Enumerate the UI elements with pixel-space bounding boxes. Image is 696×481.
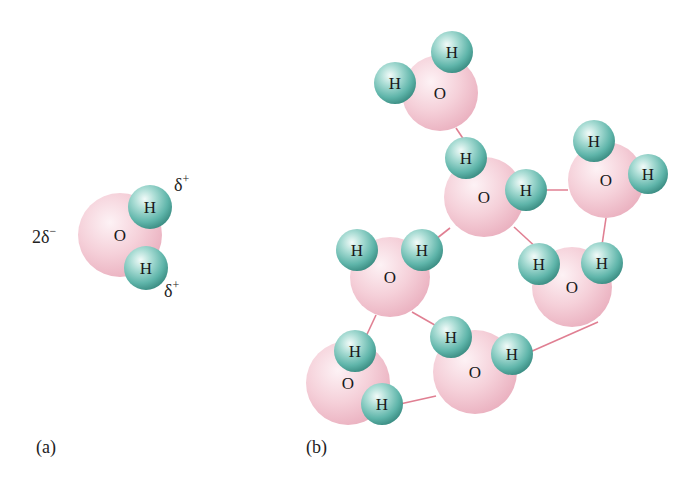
water-molecule-b-6: OHH xyxy=(306,330,403,425)
water-molecule-b-4: OHH xyxy=(336,229,443,317)
hydrogen-label: H xyxy=(520,181,532,200)
hydrogen-label: H xyxy=(445,328,457,347)
oxygen-label: O xyxy=(342,374,354,393)
hydrogen-label: H xyxy=(144,198,156,217)
molecules: OHHOHHOHHOHHOHHOHHOHHOHH xyxy=(78,31,668,425)
hydrogen-label: H xyxy=(588,132,600,151)
hydrogen-label: H xyxy=(416,241,428,260)
water-molecules-diagram: OHHOHHOHHOHHOHHOHHOHHOHH xyxy=(0,0,696,481)
hydrogen-label: H xyxy=(140,259,152,278)
hydrogen-partial-charge-top: δ+ xyxy=(174,172,189,196)
panel-label-b: (b) xyxy=(306,437,327,458)
water-molecule-b-2: OHH xyxy=(444,137,547,237)
oxygen-label: O xyxy=(114,226,126,245)
hydrogen-bond-line xyxy=(530,322,598,352)
hydrogen-label: H xyxy=(533,255,545,274)
oxygen-label: O xyxy=(384,268,396,287)
panel-label-a: (a) xyxy=(36,437,56,458)
hydrogen-label: H xyxy=(642,165,654,184)
hydrogen-label: H xyxy=(596,254,608,273)
hydrogen-label: H xyxy=(506,345,518,364)
hydrogen-bond-line xyxy=(400,396,436,404)
hydrogen-label: H xyxy=(389,74,401,93)
water-molecule-b-1: OHH xyxy=(374,31,478,131)
water-molecule-b-7: OHH xyxy=(430,316,533,414)
oxygen-label: O xyxy=(478,188,490,207)
hydrogen-label: H xyxy=(460,149,472,168)
water-molecule-b-3: OHH xyxy=(568,120,668,218)
hydrogen-label: H xyxy=(376,395,388,414)
water-molecule-a: OHH xyxy=(78,185,172,290)
oxygen-label: O xyxy=(434,84,446,103)
oxygen-label: O xyxy=(566,278,578,297)
hydrogen-partial-charge-bottom: δ+ xyxy=(164,278,179,302)
hydrogen-bond-line xyxy=(602,218,606,245)
hydrogen-label: H xyxy=(351,241,363,260)
hydrogen-label: H xyxy=(446,43,458,62)
oxygen-partial-charge: 2δ− xyxy=(32,224,56,248)
oxygen-label: O xyxy=(469,363,481,382)
water-molecule-b-5: OHH xyxy=(518,242,623,327)
oxygen-label: O xyxy=(600,171,612,190)
hydrogen-label: H xyxy=(349,342,361,361)
